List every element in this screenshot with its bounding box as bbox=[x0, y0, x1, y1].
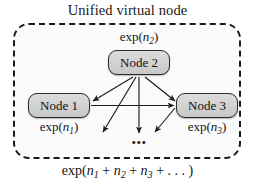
node-3-label: Node 3 bbox=[188, 98, 226, 114]
node-3[interactable]: Node 3 bbox=[176, 93, 238, 118]
ellipsis-unlabeled-nodes: ••• bbox=[108, 135, 170, 151]
diagram-title: Unified virtual node bbox=[0, 2, 255, 19]
node-2-label: Node 2 bbox=[120, 55, 158, 71]
exp-label-node-3: exp(n3) bbox=[170, 119, 244, 136]
exp-label-node-2: exp(n2) bbox=[108, 29, 170, 46]
node-1-label: Node 1 bbox=[40, 98, 78, 114]
exp-label-node-1: exp(n1) bbox=[22, 119, 96, 136]
diagram-canvas: Unified virtual node exp(n2) Node 2 Node… bbox=[0, 0, 255, 192]
node-2[interactable]: Node 2 bbox=[108, 50, 170, 75]
node-1[interactable]: Node 1 bbox=[28, 93, 90, 118]
exp-total-label: exp(n1 + n2 + n3 + . . . ) bbox=[0, 163, 255, 180]
